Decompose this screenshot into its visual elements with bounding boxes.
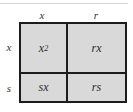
row-header-x: x (2, 41, 16, 53)
column-header-x: x (32, 9, 52, 21)
cell-rx: rx (68, 24, 125, 72)
cell-sx: sx (21, 74, 66, 101)
cell-x-squared-exponent: 2 (44, 44, 48, 53)
cell-rx-text: rx (92, 41, 102, 56)
cell-x-squared: x2 (21, 24, 66, 72)
top-divider-line (0, 3, 128, 4)
cell-sx-text: sx (39, 80, 49, 95)
vertical-divider (66, 24, 68, 101)
horizontal-divider (21, 72, 125, 74)
cell-rs-text: rs (92, 80, 101, 95)
column-header-r: r (86, 9, 106, 21)
cell-rs: rs (68, 74, 125, 101)
area-model-grid: x2 rx sx rs (19, 22, 127, 103)
row-header-s: s (2, 82, 16, 94)
